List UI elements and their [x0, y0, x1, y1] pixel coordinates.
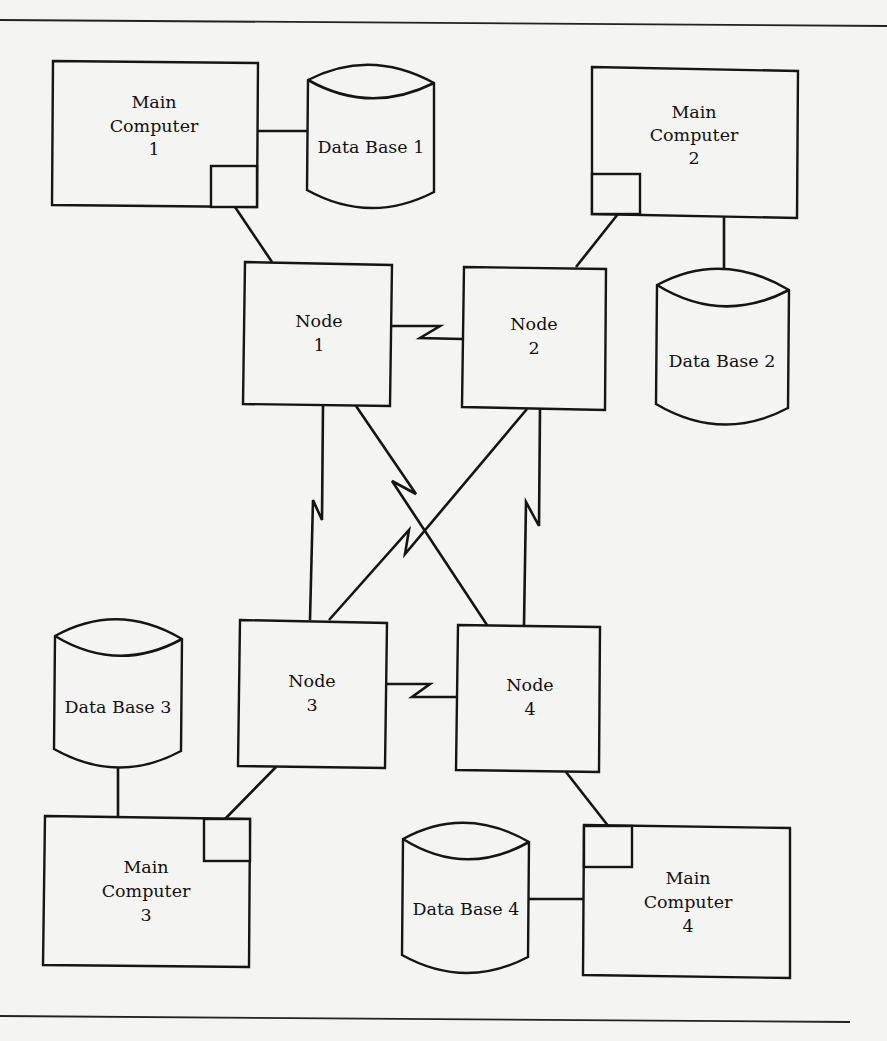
- port-box: [584, 826, 632, 867]
- database-4: Data Base 4: [402, 823, 529, 973]
- computer-label-line1: Main: [671, 102, 716, 122]
- link-node2-node4: [524, 409, 540, 625]
- database-3: Data Base 3: [54, 619, 182, 767]
- node-box: [243, 262, 392, 406]
- database-cylinder: [402, 823, 529, 973]
- database-cylinder: [54, 619, 182, 767]
- node-label-line1: Node: [506, 675, 553, 695]
- node-2: Node 2: [462, 267, 606, 410]
- network-diagram: Main Computer 1 Data Base 1 Main Compute…: [0, 0, 887, 1041]
- database-label: Data Base 1: [318, 137, 425, 157]
- node-1: Node 1: [243, 262, 392, 406]
- node-label-line1: Node: [510, 314, 557, 334]
- main-computer-1: Main Computer 1: [52, 61, 258, 207]
- link-node2-node3: [329, 409, 527, 620]
- node-label-line2: 4: [524, 699, 535, 719]
- port-box: [592, 174, 640, 214]
- node-4: Node 4: [456, 625, 600, 772]
- link-node1-node3: [310, 406, 323, 620]
- computer-label-line3: 2: [688, 148, 699, 168]
- node-label-line2: 3: [306, 695, 317, 715]
- link-node4-mc4: [566, 772, 609, 827]
- port-box: [211, 166, 257, 207]
- node-label-line2: 1: [313, 335, 324, 355]
- database-cylinder: [656, 269, 789, 425]
- bottom-rule: [0, 1016, 850, 1022]
- link-mc2-node2: [576, 214, 618, 267]
- main-computer-2: Main Computer 2: [592, 67, 798, 218]
- link-node3-node4: [387, 684, 456, 697]
- node-3: Node 3: [238, 620, 387, 768]
- computer-label-line1: Main: [123, 857, 168, 877]
- computer-label-line3: 4: [682, 916, 693, 936]
- diagram-svg: Main Computer 1 Data Base 1 Main Compute…: [0, 0, 887, 1041]
- main-computer-3: Main Computer 3: [43, 816, 250, 967]
- computer-label-line3: 1: [148, 139, 159, 159]
- link-node1-node2: [391, 326, 462, 339]
- computer-label-line2: Computer: [102, 881, 191, 901]
- main-computer-4: Main Computer 4: [583, 825, 790, 978]
- link-node1-node4: [356, 406, 487, 625]
- database-2: Data Base 2: [656, 269, 789, 425]
- connections: [118, 131, 724, 899]
- node-label-line2: 2: [528, 338, 539, 358]
- computer-label-line1: Main: [131, 92, 176, 112]
- node-box: [238, 620, 387, 768]
- database-label: Data Base 4: [413, 899, 520, 919]
- computer-label-line2: Computer: [110, 116, 199, 136]
- computer-label-line1: Main: [665, 868, 710, 888]
- computer-label-line2: Computer: [644, 892, 733, 912]
- computer-label-line3: 3: [140, 905, 151, 925]
- port-box: [204, 819, 250, 861]
- database-1: Data Base 1: [307, 65, 434, 208]
- link-mc3-node3: [225, 767, 276, 819]
- top-rule: [0, 20, 887, 26]
- link-mc1-node1: [235, 207, 272, 262]
- node-label-line1: Node: [295, 311, 342, 331]
- database-label: Data Base 2: [669, 351, 776, 371]
- database-label: Data Base 3: [65, 697, 172, 717]
- node-label-line1: Node: [288, 671, 335, 691]
- computer-label-line2: Computer: [650, 125, 739, 145]
